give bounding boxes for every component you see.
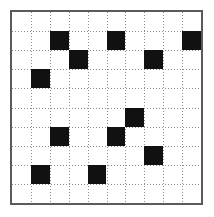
grid-cell-filled bbox=[69, 50, 88, 69]
grid-cell-filled bbox=[50, 31, 69, 50]
figure-container bbox=[0, 0, 214, 217]
grid-cell-filled bbox=[31, 165, 50, 184]
grid-cell-filled bbox=[107, 31, 126, 50]
grid-cell-filled bbox=[88, 165, 107, 184]
grid-cell-filled bbox=[144, 146, 163, 165]
grid-cell-filled bbox=[182, 31, 201, 50]
grid-cell-filled bbox=[144, 50, 163, 69]
grid-cell-filled bbox=[125, 108, 144, 127]
grid-cell-filled bbox=[31, 69, 50, 88]
grid-cells-layer bbox=[12, 12, 201, 203]
grid-cell-filled bbox=[50, 127, 69, 146]
grid-cell-filled bbox=[107, 127, 126, 146]
grid-plot-frame bbox=[10, 10, 203, 205]
